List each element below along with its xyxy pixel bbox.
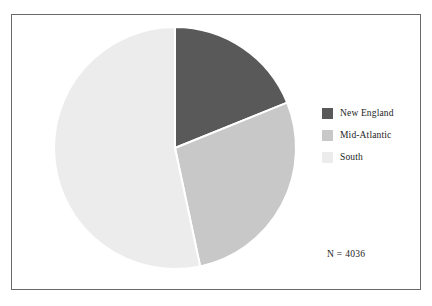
legend-swatch-mid-atlantic	[322, 130, 333, 141]
legend-item-south[interactable]: South	[322, 147, 418, 167]
legend-label-new-england: New England	[340, 108, 394, 119]
legend-swatch-south	[322, 152, 333, 163]
legend-swatch-new-england	[322, 108, 333, 119]
legend-label-mid-atlantic: Mid-Atlantic	[340, 130, 391, 141]
pie-chart-figure: New England Mid-Atlantic South N = 4036	[0, 0, 432, 306]
legend-item-mid-atlantic[interactable]: Mid-Atlantic	[322, 125, 418, 145]
pie-wedge-group	[54, 27, 296, 269]
legend-label-south: South	[340, 152, 363, 163]
legend-item-new-england[interactable]: New England	[322, 103, 418, 123]
chart-legend: New England Mid-Atlantic South	[322, 103, 418, 169]
sample-size-annotation: N = 4036	[327, 249, 365, 259]
